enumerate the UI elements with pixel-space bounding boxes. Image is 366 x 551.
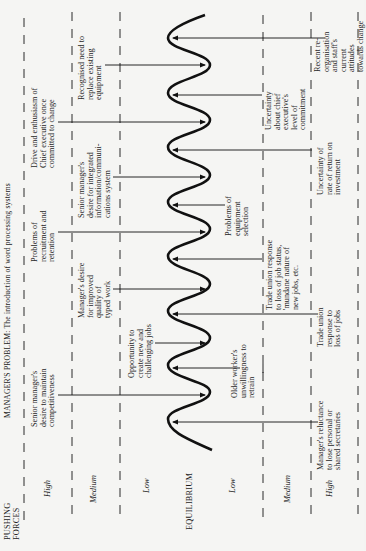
level-pushing-high: High	[43, 480, 52, 497]
pushing-force-label: Recognised need to replace existing equi…	[78, 36, 104, 100]
resisting-force-label: Manager's reluctance to lose personal or…	[317, 401, 343, 470]
pushing-force-label: Drive and enthusiasm of Chief executive …	[31, 88, 57, 168]
level-resisting-medium: Medium	[283, 475, 292, 503]
pushing-force-label: Opportunity to create new and challengin…	[128, 324, 154, 378]
level-resisting-high: High	[325, 480, 334, 497]
resisting-force-label: Recent re- organisation and staff's curr…	[314, 21, 366, 72]
resisting-force-label: Uncertainty about chief executive's leve…	[265, 89, 308, 130]
level-pushing-low: Low	[142, 478, 151, 493]
resisting-force-label: Uncertainty of rate of return on investm…	[317, 142, 343, 195]
resisting-force-label: Trade union response to loss of job stat…	[266, 240, 300, 310]
pushing-force-label: Problems of recruitment and retention	[31, 210, 57, 262]
diagram-title: MANAGER'S PROBLEM: The introduction of w…	[4, 183, 12, 418]
level-pushing-medium: Medium	[89, 475, 98, 503]
equilibrium-wave	[168, 15, 212, 450]
resisting-force-label: Trade union response to loss of jobs	[317, 308, 343, 348]
resisting-force-label: Problems of equipment selection	[225, 196, 251, 236]
pushing-force-label: Senior manager's desire to maintain comp…	[31, 368, 57, 427]
pushing-force-label: Senior manager's desire for integrated i…	[78, 143, 112, 218]
resisting-force-label: Older worker's unwillingness to retrain	[231, 344, 257, 398]
pushing-forces-label: PUSHING FORCES	[4, 503, 21, 540]
pushing-force-label: Manager's desire for improved quality of…	[78, 263, 112, 318]
equilibrium-label: EQUILIBRIUM	[186, 473, 195, 530]
level-resisting-low: Low	[228, 478, 237, 493]
